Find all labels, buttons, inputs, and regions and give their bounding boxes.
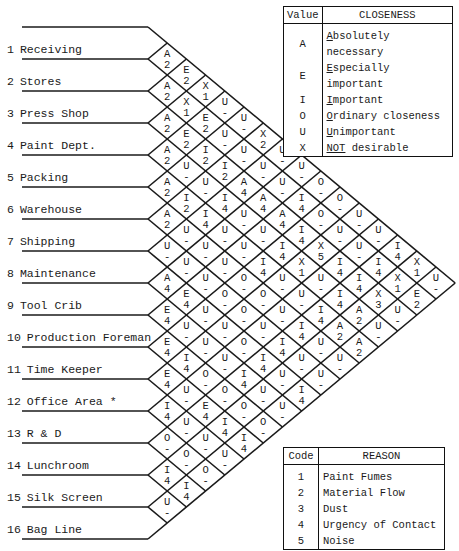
cell-1-16: U- [433, 272, 439, 295]
reason-code: - [222, 363, 228, 375]
reason-code: 4 [337, 299, 343, 311]
cell-12-13: I4 [164, 400, 170, 423]
cell-2-6: U- [222, 128, 228, 151]
reason-code: 4 [337, 267, 343, 279]
cell-6-12: O- [260, 288, 266, 311]
cell-2-14: I4 [375, 256, 381, 279]
reason-code: 4 [356, 283, 362, 295]
cell-3-5: E2 [183, 128, 189, 151]
reason-code: - [260, 299, 266, 311]
reason-code: - [222, 139, 228, 151]
cell-11-16: I4 [241, 432, 247, 455]
cell-3-15: X3 [375, 288, 382, 311]
reason-code: - [164, 443, 170, 455]
reason-code: 2 [337, 331, 343, 343]
dept-label-11: 11Time Keeper [7, 363, 103, 376]
cell-1-6: U- [241, 112, 247, 135]
reason-code: - [356, 251, 362, 263]
reason-code: 4 [260, 267, 266, 279]
dept-name: Tool Crib [20, 299, 82, 312]
reason-code: - [183, 459, 189, 471]
reason-code: 2 [260, 139, 266, 151]
reason-code: - [279, 315, 285, 327]
dept-name: Shipping [20, 235, 75, 248]
reason-code: - [318, 219, 324, 231]
cell-1-14: I4 [394, 240, 400, 263]
dept-label-15: 15Silk Screen [7, 491, 103, 504]
reason-code: 1 [414, 267, 420, 279]
reason-code: - [337, 235, 343, 247]
reason-code: 4 [164, 475, 170, 487]
reason-code: 2 [183, 75, 189, 87]
cell-9-14: I4 [241, 368, 247, 391]
cell-4-13: U- [318, 272, 324, 295]
dept-label-3: 3Press Shop [7, 107, 89, 120]
reason-legend-table: Code REASON 1 Paint Fumes 2 Material Flo… [283, 447, 445, 550]
cell-1-7: X2 [260, 128, 267, 151]
reason-code: - [318, 379, 324, 391]
reason-code: 2 [356, 347, 362, 359]
reason-code: - [202, 187, 208, 199]
cell-13-14: O- [164, 432, 170, 455]
cell-4-10: U- [260, 224, 266, 247]
reason-code: - [241, 123, 247, 135]
cell-8-16: I4 [298, 384, 304, 407]
reason-code: - [183, 235, 189, 247]
cell-2-9: U- [279, 176, 285, 199]
reason-code: - [241, 155, 247, 167]
cell-2-12: U- [337, 224, 343, 247]
reason-code: - [260, 427, 266, 439]
reason-code: 4 [298, 395, 304, 407]
cell-1-3: E2 [183, 64, 189, 87]
grid-line [148, 107, 244, 187]
reason-code: - [318, 187, 324, 199]
dept-name: Bag Line [27, 523, 82, 536]
cell-4-8: I4 [222, 192, 228, 215]
reason-code: 1 [183, 107, 189, 119]
cell-10-16: O- [260, 416, 266, 439]
cell-10-13: O- [202, 368, 208, 391]
cell-4-14: I4 [337, 288, 343, 311]
closeness-column-header: CLOSENESS [322, 7, 452, 24]
cell-3-12: X5 [318, 240, 325, 263]
cell-6-13: U- [279, 304, 285, 327]
reason-code: 4 [164, 283, 170, 295]
dept-name: Lunchroom [27, 459, 89, 472]
cell-2-13: U- [356, 240, 362, 263]
reason-code: - [222, 299, 228, 311]
reason-code: - [202, 379, 208, 391]
cell-8-14: I4 [260, 352, 266, 375]
reason-code: 4 [241, 187, 247, 199]
cell-5-13: U- [298, 288, 304, 311]
dept-label-12: 12Office Area * [7, 395, 117, 408]
cell-8-10: E4 [183, 288, 189, 311]
legend-header: Code REASON [284, 448, 445, 465]
cell-4-9: U- [241, 208, 247, 231]
reason-code: 4 [298, 331, 304, 343]
dept-label-6: 6Warehouse [7, 203, 82, 216]
dept-name: Receiving [20, 43, 82, 56]
cell-4-11: I4 [279, 240, 285, 263]
dept-label-14: 14Lunchroom [7, 459, 89, 472]
cell-2-11: O- [318, 208, 324, 231]
reason-code: 2 [164, 91, 170, 103]
dept-label-7: 7Shipping [7, 235, 75, 248]
cell-5-7: I2 [183, 192, 189, 215]
cell-5-10: U- [241, 240, 247, 263]
reason-code: - [222, 459, 228, 471]
cell-7-14: I4 [279, 336, 285, 359]
cell-6-8: U- [183, 224, 189, 247]
cell-7-9: U- [183, 256, 189, 279]
cell-9-16: U- [279, 400, 285, 423]
reason-code: 4 [164, 315, 170, 327]
grid-line [148, 171, 321, 315]
cell-9-15: U- [260, 384, 266, 407]
cell-13-15: O- [183, 448, 189, 471]
cell-9-12: U- [202, 336, 208, 359]
grid-line [148, 251, 321, 395]
cell-11-13: U- [183, 384, 189, 407]
reason-code: - [222, 267, 228, 279]
reason-code: - [202, 283, 208, 295]
cell-7-8: U- [164, 240, 170, 263]
reason-code: 2 [164, 187, 170, 199]
